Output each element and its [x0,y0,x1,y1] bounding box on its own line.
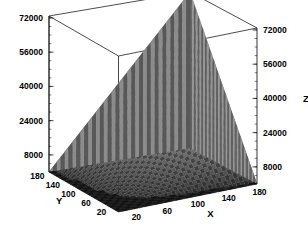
surface-skirt-x [229,104,231,170]
z-tick-label-right: 40000 [263,93,287,103]
surface-skirt-y [84,122,88,166]
x-tick-label: 60 [162,206,172,216]
surface-skirt-y [186,0,190,149]
surface-skirt-y [80,127,84,167]
surface-skirt-y [65,147,69,169]
surface-skirt-x [197,13,199,153]
surface-skirt-x [222,83,224,166]
surface-skirt-y [131,62,135,158]
y-axis-title: Y [56,195,63,206]
surface-skirt-x [227,99,229,169]
surface-skirt-y [120,77,124,160]
surface-skirt-y [76,132,80,167]
z-tick-label-right: 8000 [263,162,282,172]
x-tick-label: 100 [191,199,205,209]
surface-skirt-y [88,117,92,165]
surface-skirt-y [123,72,127,159]
surface-skirt-y [96,107,100,164]
box-top-back-edges [49,0,257,28]
surface-skirt-y [143,47,147,156]
surface-skirt-x [210,51,212,160]
z-tick-label-left: 24000 [19,116,43,126]
x-tick-label: 140 [222,193,236,203]
surface-skirt-y [127,67,131,159]
surface-skirt-y [108,92,112,162]
surface-skirt-x [190,0,192,149]
surface-skirt-y [151,37,155,155]
y-tick-label: 20 [97,207,107,217]
surface-skirt-x [224,88,226,167]
surface-skirt-y [135,57,139,157]
surface-skirt-x [233,115,235,172]
surface-skirt-x [225,93,227,168]
surface-skirt-x [214,61,216,162]
surface-skirt-y [163,22,167,153]
surface-skirt-x [207,40,209,158]
z-tick-label-right: 72000 [263,25,287,35]
surface-plot-figure: 8000800024000240004000040000560005600072… [0,0,308,239]
surface-skirt-x [218,72,220,164]
surface-skirt-x [242,141,244,177]
y-tick-label: 100 [61,189,75,199]
surface-skirt-y [112,87,116,161]
surface-skirt-y [73,137,77,168]
surface-skirt-y [174,7,178,151]
surface-skirt-y [53,162,57,171]
surface-skirt-x [201,24,203,155]
z-tick-label-right: 56000 [263,59,287,69]
surface-skirt-x [199,19,201,154]
surface-plot-canvas: 8000800024000240004000040000560005600072… [0,0,308,239]
surface-skirt-x [192,0,194,150]
surface-skirt-x [205,35,207,157]
surface-skirt-x [194,3,196,151]
x-tick-label: 180 [252,187,266,197]
surface-skirt-y [147,42,151,155]
surface-skirt-x [235,120,237,173]
z-tick-label-left: 8000 [24,150,43,160]
surface-skirt-x [248,157,250,180]
surface-skirt-x [237,125,239,174]
surface-skirt-x [231,109,233,171]
x-axis-title: X [207,208,214,219]
surface-skirt-x [253,173,255,183]
surface-skirt-y [69,142,73,169]
surface-skirt-y [104,97,108,163]
surface-skirt-y [155,32,159,154]
surface-skirt-x [220,77,222,165]
surface-skirt-y [167,17,171,152]
surface-skirt-x [240,136,242,176]
z-tick-label-left: 72000 [19,13,43,23]
y-tick-label: 60 [81,198,91,208]
surface-mesh [49,0,257,212]
surface-skirt-x [209,45,211,159]
surface-skirt-y [182,0,186,149]
surface-skirt-x [244,147,246,178]
z-tick-label-left: 56000 [19,47,43,57]
surface-skirt-y [92,112,96,165]
surface-skirt-x [238,131,240,175]
surface-skirt-x [246,152,248,179]
surface-skirt-y [178,2,182,150]
x-tick-label: 20 [132,212,142,222]
surface-skirt-x [250,163,252,181]
surface-skirt-y [159,27,163,153]
z-axis-title: Z [303,93,308,104]
surface-skirt-y [100,102,104,163]
surface-skirt-y [139,52,143,157]
surface-skirt-x [203,29,205,156]
surface-skirt-x [212,56,214,161]
surface-skirt-y [61,152,65,170]
surface-skirt-x [216,67,218,163]
surface-skirt-y [170,12,174,151]
surface-skirt-x [196,8,198,152]
surface-skirt-x [251,168,253,182]
surface-skirt-y [116,82,120,161]
z-tick-label-left: 40000 [19,81,43,91]
z-tick-label-right: 24000 [263,128,287,138]
surface-skirt-y [57,157,61,171]
y-tick-label: 140 [46,180,60,190]
y-tick-label: 180 [30,171,44,181]
